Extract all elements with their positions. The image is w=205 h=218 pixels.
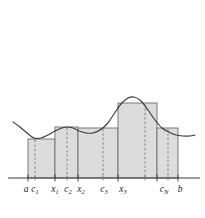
riemann-sum-chart: ac1x1c2x2c3x3cNb bbox=[0, 0, 205, 218]
riemann-sum-figure: ac1x1c2x2c3x3cNb bbox=[0, 0, 205, 218]
riemann-rectangle-2 bbox=[55, 127, 78, 178]
riemann-rectangle-5 bbox=[157, 128, 178, 178]
riemann-rectangle-3 bbox=[78, 128, 118, 178]
riemann-rectangle-1 bbox=[28, 139, 55, 178]
label-b: b bbox=[178, 184, 183, 194]
label-a: a bbox=[24, 184, 29, 194]
